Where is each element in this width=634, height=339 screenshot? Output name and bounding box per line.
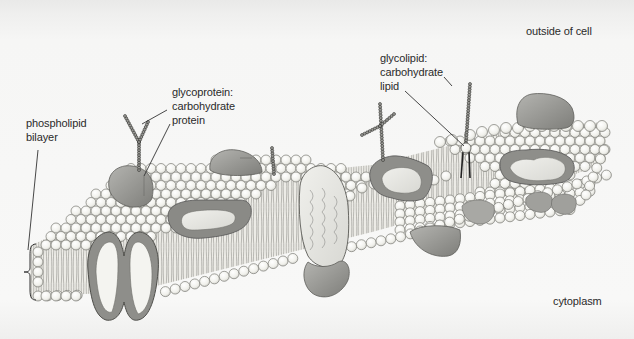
- phospholipid-head: [501, 123, 512, 134]
- phospholipid-head: [454, 214, 464, 224]
- phospholipid-head: [366, 238, 376, 248]
- phospholipid-head: [592, 163, 602, 173]
- phospholipid-head: [251, 189, 261, 199]
- sugar-bead: [379, 103, 382, 106]
- glycolipid-label-carbohydrate: carbohydrate: [380, 65, 443, 79]
- membrane-diagram: outside of cell cytoplasm phospholipid b…: [0, 0, 634, 339]
- phospholipid-head: [71, 240, 81, 250]
- phospholipid-bilayer-label-line-2: bilayer: [26, 130, 87, 144]
- phospholipid-head: [489, 125, 500, 136]
- phospholipid-head: [562, 182, 572, 192]
- sugar-bead: [393, 113, 396, 116]
- phospholipid-head: [229, 269, 239, 279]
- phospholipid-head: [396, 232, 406, 242]
- sugar-bead: [361, 134, 364, 137]
- glycoprotein-label: glycoprotein: carbohydrate protein: [172, 85, 235, 127]
- membrane-illustration: [0, 0, 634, 339]
- phospholipid-head: [209, 274, 219, 284]
- phospholipid-head: [503, 199, 513, 209]
- phospholipid-head: [51, 240, 61, 250]
- phospholipid-head: [585, 181, 595, 191]
- glycoprotein-label-title: glycoprotein:: [172, 85, 235, 99]
- phospholipid-head: [441, 171, 451, 181]
- sugar-bead: [124, 115, 127, 118]
- peripheral-protein-top: [210, 150, 262, 176]
- phospholipid-head: [268, 259, 278, 269]
- cytoplasm-label: cytoplasm: [553, 294, 602, 308]
- phospholipid-head: [41, 291, 51, 301]
- phospholipid-head: [33, 247, 43, 257]
- sugar-bead: [271, 147, 274, 150]
- phospholipid-head: [445, 217, 455, 227]
- glycoprotein-label-protein: protein: [172, 113, 235, 127]
- peripheral-protein-bottom: [410, 226, 461, 257]
- phospholipid-head: [281, 172, 291, 182]
- phospholipid-head: [601, 170, 611, 180]
- glycolipid-label: glycolipid: carbohydrate lipid: [380, 51, 443, 93]
- phospholipid-head: [219, 271, 229, 281]
- phospholipid-head: [33, 267, 43, 277]
- phospholipid-head: [525, 209, 535, 219]
- phospholipid-head: [450, 145, 460, 155]
- phospholipid-head: [447, 135, 458, 146]
- phospholipid-head: [33, 257, 43, 267]
- phospholipid-head: [480, 162, 490, 172]
- phospholipid-head: [581, 190, 591, 200]
- glycolipid-label-lipid: lipid: [380, 79, 443, 93]
- phospholipid-bilayer-label: phospholipid bilayer: [26, 116, 87, 144]
- phospholipid-head: [347, 242, 357, 252]
- phospholipid-head: [200, 276, 210, 286]
- phospholipid-head: [61, 240, 71, 250]
- phospholipid-head: [33, 277, 43, 287]
- phospholipid-head: [597, 121, 608, 132]
- phospholipid-head: [588, 172, 598, 182]
- phospholipid-head: [258, 261, 268, 271]
- phospholipid-head: [376, 236, 386, 246]
- phospholipid-head: [288, 253, 298, 263]
- phospholipid-head: [160, 287, 170, 297]
- phospholipid-head: [51, 291, 61, 301]
- phospholipid-head: [580, 162, 590, 172]
- phospholipid-head: [61, 291, 71, 301]
- phospholipid-head: [356, 240, 366, 250]
- phospholipid-head: [266, 181, 276, 191]
- phospholipid-head: [170, 284, 180, 294]
- phospholipid-head: [585, 121, 596, 132]
- phospholipid-bilayer-label-line-1: phospholipid: [26, 116, 87, 130]
- phospholipid-head: [513, 197, 523, 207]
- outside-of-cell-label: outside of cell: [526, 24, 592, 38]
- phospholipid-head: [71, 291, 81, 301]
- phospholipid-head: [81, 240, 91, 250]
- peripheral-protein-top-right: [517, 94, 574, 130]
- phospholipid-head: [249, 264, 259, 274]
- phospholipid-head: [515, 211, 525, 221]
- phospholipid-head: [41, 240, 51, 250]
- phospholipid-head: [357, 183, 367, 193]
- phospholipid-head: [386, 234, 396, 244]
- phospholipid-head: [278, 256, 288, 266]
- glycoprotein-label-carbohydrate: carbohydrate: [172, 99, 235, 113]
- phospholipid-head: [477, 127, 488, 138]
- phospholipid-head: [190, 279, 200, 289]
- integral-protein-center: [299, 166, 349, 297]
- sugar-bead: [469, 83, 472, 86]
- phospholipid-head: [494, 202, 504, 212]
- phospholipid-head: [573, 121, 584, 132]
- phospholipid-head: [599, 145, 609, 155]
- glycolipid-label-title: glycolipid:: [380, 51, 443, 65]
- phospholipid-head: [595, 154, 605, 164]
- phospholipid-head: [239, 266, 249, 276]
- phospholipid-head: [180, 282, 190, 292]
- phospholipid-head: [495, 213, 505, 223]
- phospholipid-head: [435, 137, 446, 148]
- phospholipid-head: [572, 179, 582, 189]
- phospholipid-head: [505, 212, 515, 222]
- phospholipid-head: [552, 185, 562, 195]
- phospholipid-head: [291, 172, 301, 182]
